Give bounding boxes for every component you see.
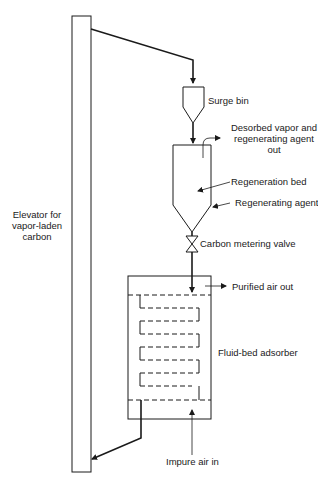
elevator-label: Elevator for vapor-laden carbon: [6, 209, 68, 242]
regeneration-bed-leader: [198, 182, 230, 191]
purified-air-out-label: Purified air out: [232, 281, 293, 292]
regenerating-agent-label: Regenerating agent: [235, 197, 318, 208]
impure-air-in-label: Impure air in: [166, 456, 219, 467]
fluid-bed-adsorber-label: Fluid-bed adsorber: [218, 347, 298, 358]
adsorber-trays: [140, 295, 199, 400]
elevator-label-line3: carbon: [6, 231, 68, 242]
regeneration-bed-vessel: [173, 145, 211, 232]
desorbed-vapor-label: Desorbed vapor and regenerating agent ou…: [228, 122, 318, 155]
transfer-line-to-surge-bin: [91, 29, 193, 83]
elevator-label-line2: vapor-laden: [6, 220, 68, 231]
carbon-metering-valve-icon: [186, 236, 198, 252]
return-line-to-elevator: [92, 400, 141, 459]
desorbed-vapor-label-line3: out: [228, 144, 318, 155]
elevator-column: [72, 16, 91, 472]
desorbed-vapor-label-line1: Desorbed vapor and: [228, 122, 318, 133]
surge-bin-vessel: [183, 87, 204, 123]
surge-bin-label: Surge bin: [208, 95, 249, 106]
regeneration-bed-label: Regeneration bed: [231, 176, 307, 187]
regenerating-agent-inlet-arrow: [213, 203, 230, 207]
desorbed-vapor-label-line2: regenerating agent: [228, 133, 318, 144]
elevator-label-line1: Elevator for: [6, 209, 68, 220]
carbon-metering-valve-label: Carbon metering valve: [200, 238, 296, 249]
